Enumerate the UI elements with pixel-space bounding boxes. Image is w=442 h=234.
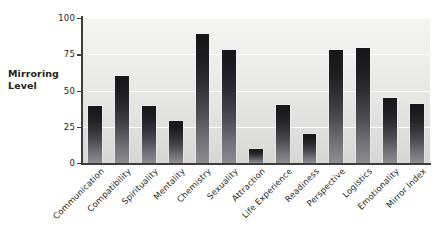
y-tick-label-75: 75 xyxy=(53,49,75,59)
y-axis-line xyxy=(81,16,83,165)
x-axis-line xyxy=(81,163,431,165)
bar-mirror-index xyxy=(410,104,424,163)
y-tick-mark-0 xyxy=(77,163,81,164)
y-tick-label-50: 50 xyxy=(53,86,75,96)
y-tick-label-100: 100 xyxy=(53,13,75,23)
bar-emotionality xyxy=(383,98,397,163)
y-tick-label-0: 0 xyxy=(53,158,75,168)
bar-attraction xyxy=(249,149,263,164)
y-axis-title-line-1: Mirroring xyxy=(8,68,70,80)
bar-chemistry xyxy=(196,34,210,163)
bar-communication xyxy=(88,106,102,163)
bar-compatibility xyxy=(115,76,129,163)
bar-sexuality xyxy=(222,50,236,163)
bar-life-experience xyxy=(276,105,290,163)
bar-logistics xyxy=(356,48,370,163)
y-tick-mark-25 xyxy=(77,127,81,128)
bar-readiness xyxy=(303,134,317,163)
bar-mentality xyxy=(169,121,183,163)
bar-chart: Mirroring Level 0255075100 Communication… xyxy=(0,0,442,234)
y-tick-mark-50 xyxy=(77,91,81,92)
y-tick-label-25: 25 xyxy=(53,122,75,132)
bar-perspective xyxy=(329,50,343,163)
bar-spirituality xyxy=(142,106,156,163)
y-tick-mark-75 xyxy=(77,54,81,55)
x-axis-labels: CommunicationCompatibilitySpiritualityMe… xyxy=(82,166,442,234)
y-tick-mark-100 xyxy=(77,18,81,19)
bars-container xyxy=(82,18,430,163)
